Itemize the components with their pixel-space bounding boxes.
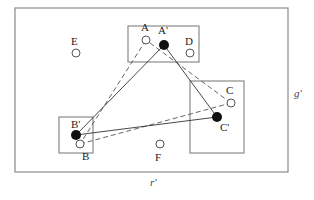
label-D: D — [185, 35, 193, 47]
label-A-prime: A' — [158, 24, 168, 36]
label-B: B — [82, 150, 89, 162]
label-E: E — [71, 35, 78, 47]
color-space-diagram: AA'DEB'BFCC' r' g' — [0, 0, 314, 200]
point-E-hollow-icon — [72, 49, 80, 57]
point-F-hollow-icon — [156, 140, 164, 148]
label-C: C — [226, 84, 233, 96]
solid-edge-B-prime-C-prime — [76, 117, 217, 135]
label-F: F — [155, 151, 161, 163]
label-A: A — [141, 21, 149, 33]
point-labels: AA'DEB'BFCC' — [71, 21, 233, 163]
solid-triangle — [76, 45, 217, 135]
point-B-prime-filled-icon — [71, 130, 81, 140]
outer-region-box — [15, 8, 288, 172]
point-B-hollow-icon — [76, 140, 84, 148]
axis-label-r-prime: r' — [150, 176, 157, 188]
label-C-prime: C' — [220, 121, 229, 133]
point-D-hollow-icon — [186, 49, 194, 57]
point-A-prime-filled-icon — [159, 40, 169, 50]
dashed-edge-B-C — [80, 103, 231, 144]
point-C-hollow-icon — [227, 99, 235, 107]
dashed-triangle — [80, 40, 231, 144]
axis-label-g-prime: g' — [294, 87, 303, 99]
solid-edge-A-prime-B-prime — [76, 45, 164, 135]
points — [71, 36, 235, 148]
point-A-hollow-icon — [142, 36, 150, 44]
label-B-prime: B' — [71, 118, 80, 130]
